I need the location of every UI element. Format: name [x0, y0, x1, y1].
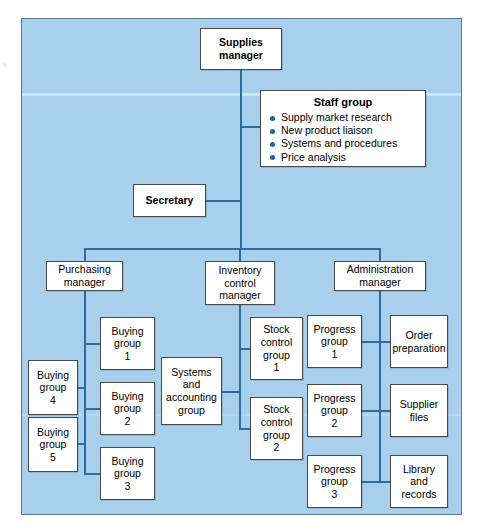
node-buying-group-2[interactable]: Buying group 2: [100, 382, 155, 435]
edge-purchasing-to-buying-4: [77, 387, 85, 389]
staff-group-item: Supply market research: [269, 111, 417, 124]
node-buying-group-3-label: Buying group 3: [111, 455, 143, 493]
edge-inventory-spine: [239, 305, 241, 429]
org-chart-canvas: Supplies manager Staff group Supply mark…: [0, 0, 480, 532]
edge-administration-to-progress-3: [362, 481, 380, 483]
node-supplies-manager-label: Supplies manager: [219, 36, 263, 61]
edge-manager-bus: [84, 248, 380, 250]
staff-group-item: New product liaison: [269, 124, 417, 137]
node-inventory-control-manager-label: Inventory control manager: [218, 264, 261, 302]
node-inventory-control-manager[interactable]: Inventory control manager: [205, 261, 275, 305]
node-supplier-files-label: Supplier files: [400, 398, 439, 423]
staff-group-list: Supply market research New product liais…: [269, 111, 417, 164]
node-staff-group[interactable]: Staff group Supply market research New p…: [260, 90, 426, 167]
node-administration-manager[interactable]: Administration manager: [334, 261, 426, 291]
edge-administration-to-progress-2: [362, 410, 380, 412]
node-purchasing-manager[interactable]: Purchasing manager: [46, 261, 123, 291]
node-order-preparation-label: Order preparation: [392, 329, 445, 354]
node-secretary-label: Secretary: [146, 194, 194, 207]
bullet-icon: [270, 155, 275, 160]
node-stock-control-group-1[interactable]: Stock control group 1: [250, 317, 303, 380]
node-progress-group-1[interactable]: Progress group 1: [307, 315, 362, 368]
node-buying-group-5[interactable]: Buying group 5: [28, 417, 78, 472]
edge-purchasing-to-buying-5: [77, 443, 85, 445]
edge-purchasing-to-buying-2: [84, 408, 101, 410]
node-buying-group-4[interactable]: Buying group 4: [28, 360, 78, 415]
node-buying-group-5-label: Buying group 5: [37, 426, 69, 464]
node-library-and-records[interactable]: Library and records: [390, 455, 448, 508]
staff-group-item-label: Systems and procedures: [281, 137, 397, 149]
edge-administration-to-progress-1: [362, 341, 380, 343]
scan-artifact: [3, 63, 7, 67]
node-systems-and-accounting-group-label: Systems and accounting group: [166, 366, 217, 416]
node-buying-group-2-label: Buying group 2: [111, 390, 143, 428]
node-stock-control-group-2-label: Stock control group 2: [261, 403, 293, 453]
edge-purchasing-to-buying-3: [84, 473, 101, 475]
node-supplies-manager[interactable]: Supplies manager: [200, 28, 282, 70]
edge-root-to-staff-group: [240, 126, 261, 128]
staff-group-item-label: Price analysis: [281, 151, 346, 163]
edge-purchasing-to-buying-1: [84, 343, 101, 345]
edge-inventory-to-systems: [221, 391, 240, 393]
staff-group-item: Systems and procedures: [269, 137, 417, 150]
edge-bus-to-inventory: [239, 248, 241, 261]
edge-bus-to-administration: [379, 248, 381, 261]
node-progress-group-3-label: Progress group 3: [313, 463, 355, 501]
bullet-icon: [270, 129, 275, 134]
edge-bus-to-purchasing: [84, 248, 86, 261]
node-stock-control-group-2[interactable]: Stock control group 2: [250, 397, 303, 460]
edge-administration-spine: [379, 290, 381, 482]
node-progress-group-1-label: Progress group 1: [313, 323, 355, 361]
node-buying-group-1[interactable]: Buying group 1: [100, 317, 155, 370]
node-buying-group-4-label: Buying group 4: [37, 369, 69, 407]
node-buying-group-3[interactable]: Buying group 3: [100, 447, 155, 500]
node-systems-and-accounting-group[interactable]: Systems and accounting group: [161, 357, 222, 425]
node-purchasing-manager-label: Purchasing manager: [58, 263, 111, 288]
edge-root-to-secretary: [206, 200, 241, 202]
node-supplier-files[interactable]: Supplier files: [390, 384, 448, 437]
node-library-and-records-label: Library and records: [401, 463, 436, 501]
node-stock-control-group-1-label: Stock control group 1: [261, 323, 293, 373]
node-progress-group-2-label: Progress group 2: [313, 392, 355, 430]
node-buying-group-1-label: Buying group 1: [111, 325, 143, 363]
edge-root-spine: [240, 70, 242, 249]
edge-purchasing-spine: [84, 290, 86, 474]
node-progress-group-2[interactable]: Progress group 2: [307, 384, 362, 437]
bullet-icon: [270, 116, 275, 121]
staff-group-item-label: New product liaison: [281, 124, 373, 136]
node-administration-manager-label: Administration manager: [347, 263, 414, 288]
staff-group-item: Price analysis: [269, 151, 417, 164]
node-order-preparation[interactable]: Order preparation: [390, 315, 448, 368]
staff-group-item-label: Supply market research: [281, 111, 392, 123]
bullet-icon: [270, 142, 275, 147]
node-progress-group-3[interactable]: Progress group 3: [307, 455, 362, 508]
staff-group-title: Staff group: [269, 96, 417, 109]
node-secretary[interactable]: Secretary: [133, 184, 206, 217]
